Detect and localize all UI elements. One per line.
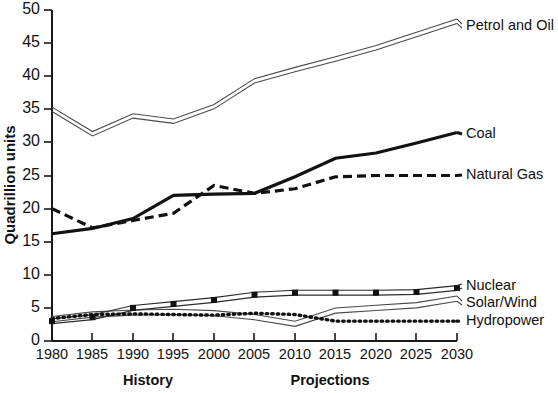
y-tick-label-40: 40: [22, 66, 40, 83]
nuclear-marker: [414, 289, 420, 295]
y-tick-label-35: 35: [22, 99, 40, 116]
nuclear-marker: [211, 297, 217, 303]
history-label: History: [123, 372, 173, 388]
x-tick-label-2000: 2000: [198, 346, 230, 362]
nuclear-marker: [373, 290, 379, 296]
energy-consumption-chart: Quadrillion units 50 45 40 35 30 25 20: [0, 0, 558, 393]
leader-petrol-lower: [457, 23, 462, 28]
y-tick-label-10: 10: [22, 265, 40, 282]
x-tick-label-2030: 2030: [441, 346, 473, 362]
axes: [52, 10, 457, 341]
x-tick-label-2005: 2005: [238, 346, 270, 362]
series-line-coal: [52, 132, 457, 233]
series-label-coal: Coal: [466, 125, 496, 141]
x-tick-label-1995: 1995: [157, 346, 189, 362]
x-tick-label-1990: 1990: [117, 346, 149, 362]
y-tick-label-50: 50: [22, 0, 40, 17]
series-label-hydro: Hydropower: [466, 312, 544, 328]
nuclear-marker: [171, 301, 177, 307]
leader-nuclear-upper: [457, 284, 462, 286]
leader-petrol-upper: [457, 19, 462, 24]
x-tick-label-2010: 2010: [279, 346, 311, 362]
y-tick-label-15: 15: [22, 232, 40, 249]
series-labels: Petrol and Oil Coal Natural Gas Nuclear …: [466, 17, 554, 328]
y-tick-label-30: 30: [22, 132, 40, 149]
series-line-solar-upper: [52, 296, 457, 321]
leader-natural-gas: [457, 175, 462, 176]
series-label-gas: Natural Gas: [466, 166, 543, 182]
series-label-petrol: Petrol and Oil: [466, 17, 554, 33]
nuclear-marker: [333, 290, 339, 296]
x-tick-label-2015: 2015: [319, 346, 351, 362]
leader-solar-lower: [457, 301, 462, 305]
series-layer: [49, 19, 462, 326]
series-line-natural-gas: [52, 176, 457, 228]
y-tick-label-20: 20: [22, 199, 40, 216]
x-tick-label-2020: 2020: [360, 346, 392, 362]
series-label-nuclear: Nuclear: [466, 277, 516, 293]
y-axis-title: Quadrillion units: [1, 125, 18, 244]
series-line-petrol-lower: [52, 23, 457, 136]
projections-label: Projections: [291, 372, 370, 388]
series-line-petrol-upper: [52, 19, 457, 132]
y-tick-label-25: 25: [22, 166, 40, 183]
chart-svg: Quadrillion units 50 45 40 35 30 25 20: [0, 0, 558, 393]
nuclear-marker: [292, 290, 298, 296]
x-tick-label-1980: 1980: [36, 346, 68, 362]
x-ticks: 1980 1985 1990 1995 2000 2005 2010 2015 …: [36, 333, 473, 362]
leader-solar-upper: [457, 296, 462, 301]
x-tick-label-1985: 1985: [76, 346, 108, 362]
leader-coal: [457, 132, 462, 134]
y-tick-label-45: 45: [22, 33, 40, 50]
x-tick-label-2025: 2025: [400, 346, 432, 362]
y-tick-label-5: 5: [31, 298, 40, 315]
y-ticks: 50 45 40 35 30 25 20 15 10 5 0: [22, 0, 52, 348]
series-label-solar: Solar/Wind: [466, 294, 537, 310]
nuclear-marker: [252, 292, 258, 298]
nuclear-marker: [130, 305, 136, 311]
